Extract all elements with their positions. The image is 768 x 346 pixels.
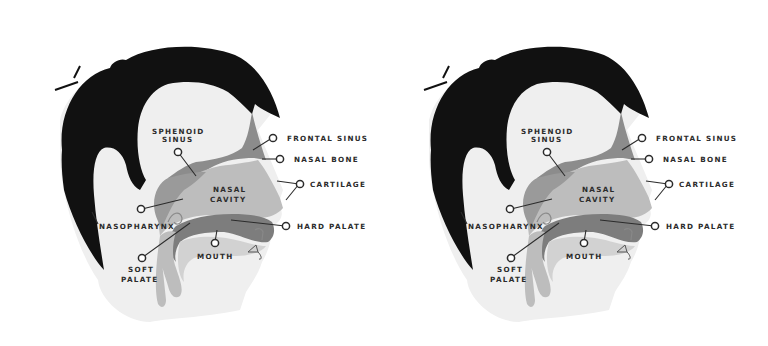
label-frontal-sinus: FRONTAL SINUS bbox=[287, 134, 368, 143]
diagram-right: SPHENOID SINUS FRONTAL SINUS NASAL BONE … bbox=[424, 47, 737, 322]
label-sphenoid-sinus-line2: SINUS bbox=[162, 135, 193, 144]
label-soft-palate-line1: SOFT bbox=[497, 265, 523, 274]
label-frontal-sinus: FRONTAL SINUS bbox=[656, 134, 737, 143]
label-cartilage: CARTILAGE bbox=[310, 180, 366, 189]
label-nasal-cavity-line1: NASAL bbox=[582, 185, 615, 194]
label-nasal-cavity-line2: CAVITY bbox=[579, 195, 616, 204]
label-soft-palate-line1: SOFT bbox=[128, 265, 154, 274]
label-hard-palate: HARD PALATE bbox=[297, 222, 366, 231]
label-nasopharynx: NASOPHARYNX bbox=[468, 222, 544, 231]
label-nasal-bone: NASAL BONE bbox=[663, 155, 728, 164]
label-soft-palate-line2: PALATE bbox=[121, 275, 158, 284]
label-hard-palate: HARD PALATE bbox=[666, 222, 735, 231]
label-nasopharynx: NASOPHARYNX bbox=[99, 222, 175, 231]
label-nasal-cavity-line1: NASAL bbox=[213, 185, 246, 194]
label-nasal-bone: NASAL BONE bbox=[294, 155, 359, 164]
label-mouth: MOUTH bbox=[197, 252, 234, 261]
diagram-left: SPHENOID SINUS FRONTAL SINUS NASAL BONE … bbox=[55, 47, 368, 322]
label-soft-palate-line2: PALATE bbox=[490, 275, 527, 284]
label-mouth: MOUTH bbox=[566, 252, 603, 261]
label-cartilage: CARTILAGE bbox=[679, 180, 735, 189]
label-nasal-cavity-line2: CAVITY bbox=[210, 195, 247, 204]
label-sphenoid-sinus-line2: SINUS bbox=[531, 135, 562, 144]
anatomy-diagram: SPHENOID SINUS FRONTAL SINUS NASAL BONE … bbox=[0, 0, 768, 346]
